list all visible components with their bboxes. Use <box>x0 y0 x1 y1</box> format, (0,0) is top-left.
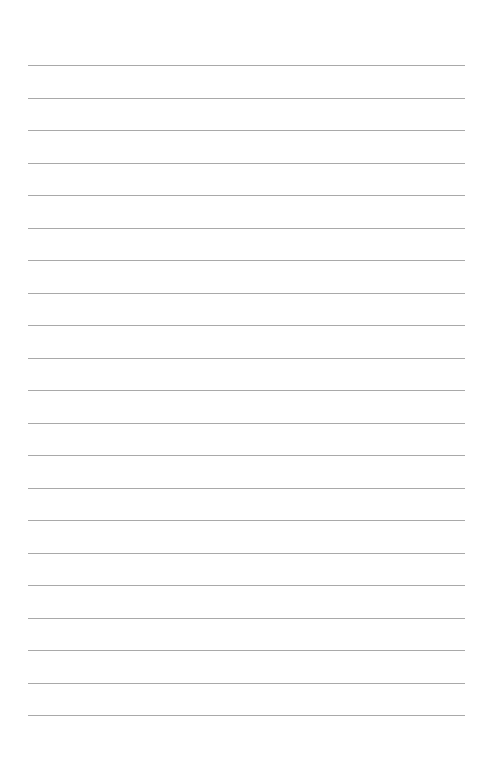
ruled-line <box>28 228 465 229</box>
ruled-line <box>28 618 465 619</box>
ruled-line <box>28 423 465 424</box>
ruled-line <box>28 325 465 326</box>
ruled-line <box>28 260 465 261</box>
ruled-line <box>28 358 465 359</box>
ruled-line <box>28 585 465 586</box>
lined-paper-page <box>0 0 487 758</box>
ruled-line <box>28 553 465 554</box>
ruled-line <box>28 293 465 294</box>
ruled-line <box>28 455 465 456</box>
ruled-line <box>28 520 465 521</box>
ruled-line <box>28 488 465 489</box>
ruled-line <box>28 195 465 196</box>
ruled-line <box>28 163 465 164</box>
ruled-line <box>28 715 465 716</box>
ruled-line <box>28 98 465 99</box>
ruled-line <box>28 390 465 391</box>
ruled-line <box>28 683 465 684</box>
ruled-line <box>28 130 465 131</box>
ruled-line <box>28 65 465 66</box>
ruled-line <box>28 650 465 651</box>
